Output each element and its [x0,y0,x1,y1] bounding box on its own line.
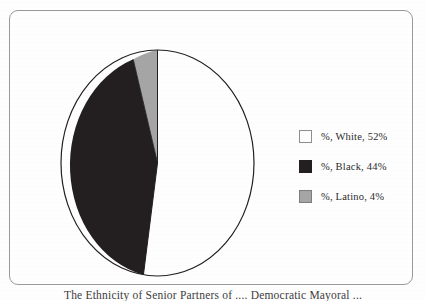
legend-swatch-white [299,130,312,143]
legend-swatch-black [299,160,312,173]
legend-item-white: %, White, 52% [299,121,419,151]
pie-chart-svg [60,49,255,277]
figure-caption: The Ethnicity of Senior Partners of ....… [0,289,426,301]
legend-label-black: %, Black, 44% [321,161,387,172]
legend-swatch-latino [299,190,312,203]
figure-frame: %, White, 52% %, Black, 44% %, Latino, 4… [9,10,413,285]
pie-chart [60,49,255,277]
chart-legend: %, White, 52% %, Black, 44% %, Latino, 4… [299,121,419,211]
legend-label-latino: %, Latino, 4% [321,191,384,202]
legend-label-white: %, White, 52% [321,131,388,142]
legend-item-latino: %, Latino, 4% [299,181,419,211]
legend-item-black: %, Black, 44% [299,151,419,181]
